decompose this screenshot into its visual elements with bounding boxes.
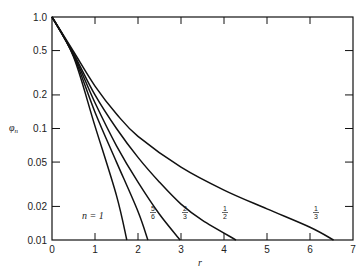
curve-5-6 [52,17,148,240]
chart: 01234567 1.00.50.20.10.050.020.01 n = 15… [0,0,364,279]
svg-text:5: 5 [151,205,155,212]
svg-text:3: 3 [183,213,187,220]
x-tick-label: 5 [264,244,270,255]
svg-text:3: 3 [314,213,318,220]
y-tick-label: 0.5 [33,45,47,56]
label-n-equals-1: n = 1 [82,210,104,221]
x-tick-label: 6 [307,244,313,255]
label-frac-2-3: 23 [182,205,188,220]
phi-subscript: n [15,127,19,135]
label-frac-1-2: 12 [222,205,228,220]
x-tick-label: 4 [221,244,227,255]
y-tick-label: 0.05 [28,157,48,168]
curve-1-3 [52,17,334,240]
y-tick-label: 0.01 [28,235,48,246]
svg-text:1: 1 [223,205,227,212]
y-tick-label: 0.1 [33,123,47,134]
curve-n-1 [52,17,127,240]
x-tick-label: 7 [350,244,356,255]
y-tick-label: 0.02 [28,201,48,212]
x-tick-label: 0 [49,244,55,255]
x-axis-title: r [198,257,202,268]
svg-text:2: 2 [183,205,187,212]
y-axis: 1.00.50.20.10.050.020.01 [28,12,353,246]
curves [52,17,334,240]
x-tick-label: 1 [92,244,98,255]
svg-text:1: 1 [314,205,318,212]
svg-text:6: 6 [151,213,155,220]
svg-text:2: 2 [223,213,227,220]
x-tick-label: 2 [135,244,141,255]
plot-frame [52,17,353,240]
label-frac-1-3: 13 [313,205,319,220]
curve-1-2 [52,17,236,240]
y-tick-label: 0.2 [33,89,47,100]
y-axis-title: φn [9,122,19,135]
x-tick-label: 3 [178,244,184,255]
y-tick-label: 1.0 [33,12,47,23]
